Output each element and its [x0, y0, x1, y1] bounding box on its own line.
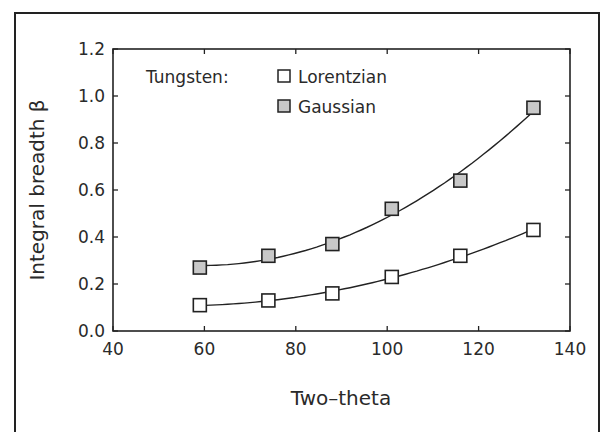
legend-label-gaussian: Gaussian	[298, 97, 376, 117]
lorentzian-marker-icon	[193, 299, 206, 312]
data-markers	[193, 101, 540, 311]
x-tick-label: 80	[285, 339, 307, 359]
y-tick-label: 1.2	[78, 39, 105, 59]
axes: 4060801001201400.00.20.40.60.81.01.2	[78, 39, 586, 359]
legend-title: Tungsten:	[145, 67, 229, 87]
gaussian-marker-icon	[262, 249, 275, 262]
lorentzian-marker-icon	[326, 287, 339, 300]
gaussian-marker-icon	[193, 261, 206, 274]
gaussian-legend-icon	[278, 100, 290, 112]
lorentzian-marker-icon	[454, 249, 467, 262]
lorentzian-marker-icon	[385, 270, 398, 283]
legend: Tungsten: Lorentzian Gaussian	[145, 67, 387, 117]
y-tick-label: 0.6	[78, 180, 105, 200]
gaussian-marker-icon	[385, 202, 398, 215]
fit-curves	[200, 111, 534, 305]
gaussian-marker-icon	[326, 238, 339, 251]
x-tick-label: 120	[462, 339, 494, 359]
y-tick-label: 1.0	[78, 86, 105, 106]
lorentzian-marker-icon	[262, 294, 275, 307]
gaussian-fit-curve	[200, 111, 534, 265]
y-axis-title: Integral breadth β	[25, 99, 49, 280]
x-axis-title: Two–theta	[290, 386, 391, 410]
lorentzian-legend-icon	[278, 70, 290, 82]
lorentzian-marker-icon	[527, 223, 540, 236]
y-tick-label: 0.4	[78, 227, 105, 247]
lorentzian-fit-curve	[200, 229, 534, 305]
gaussian-marker-icon	[454, 174, 467, 187]
x-tick-label: 140	[554, 339, 586, 359]
gaussian-marker-icon	[527, 101, 540, 114]
y-tick-label: 0.2	[78, 274, 105, 294]
legend-label-lorentzian: Lorentzian	[298, 67, 387, 87]
x-tick-label: 60	[194, 339, 216, 359]
y-tick-label: 0.0	[78, 321, 105, 341]
x-tick-label: 100	[371, 339, 403, 359]
y-tick-label: 0.8	[78, 133, 105, 153]
x-tick-label: 40	[102, 339, 124, 359]
